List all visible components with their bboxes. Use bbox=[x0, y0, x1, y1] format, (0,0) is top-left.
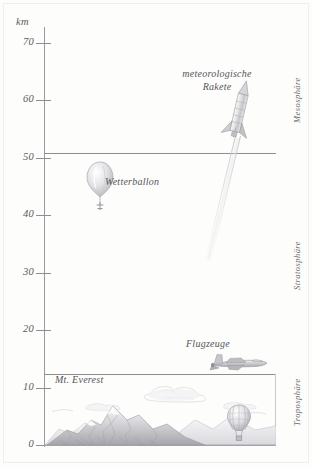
layer-label-troposphere: Troposphäre bbox=[292, 378, 302, 426]
y-axis-tick-mark bbox=[36, 215, 51, 216]
object-caption: meteorologische Rakete bbox=[163, 68, 271, 93]
object-caption: Wetterballon bbox=[105, 176, 159, 189]
mountain-range-illustration bbox=[45, 396, 276, 446]
troposphere-box-right-edge bbox=[275, 374, 276, 446]
object-caption: Flugzeuge bbox=[186, 338, 230, 351]
object-caption: Mt. Everest bbox=[55, 374, 103, 387]
jet-aircraft-illustration bbox=[208, 349, 270, 375]
stratopause-line bbox=[44, 153, 276, 154]
y-axis-unit-label: km bbox=[16, 16, 29, 27]
hot-air-balloon-illustration bbox=[226, 404, 252, 444]
y-axis-tick-label: 30 bbox=[0, 267, 34, 278]
layer-label-mesosphere: Mesosphäre bbox=[292, 77, 302, 123]
y-axis-tick-mark bbox=[36, 158, 51, 159]
layer-label-stratosphere: Stratosphäre bbox=[292, 241, 302, 290]
y-axis-tick-label: 10 bbox=[0, 382, 34, 393]
y-axis-tick-label: 70 bbox=[0, 37, 34, 48]
y-axis-tick-mark bbox=[36, 273, 51, 274]
y-axis-tick-label: 50 bbox=[0, 152, 34, 163]
y-axis-tick-mark bbox=[36, 330, 51, 331]
y-axis-tick-label: 0 bbox=[0, 439, 34, 450]
y-axis-tick-label: 20 bbox=[0, 324, 34, 335]
y-axis-tick-label: 40 bbox=[0, 209, 34, 220]
y-axis-tick-mark bbox=[36, 388, 51, 389]
meteorological-rocket-illustration bbox=[195, 78, 275, 263]
atmosphere-altitude-diagram: km 706050403020100 Mesosphäre Stratosphä… bbox=[0, 0, 312, 467]
y-axis-tick-label: 60 bbox=[0, 94, 34, 105]
y-axis-tick-mark bbox=[36, 100, 51, 101]
y-axis-tick-mark bbox=[36, 43, 51, 44]
ground-line bbox=[44, 445, 276, 446]
y-axis-line bbox=[44, 27, 45, 447]
